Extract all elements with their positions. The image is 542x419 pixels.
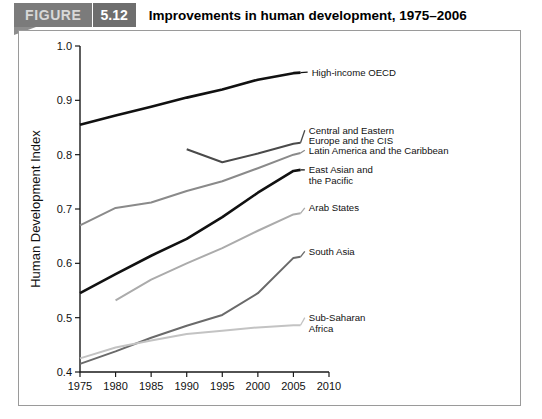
- series-line-0: [80, 73, 301, 125]
- y-tick-label: 0.8: [57, 149, 72, 161]
- series-leader-6: [301, 318, 305, 326]
- figure-root: FIGURE 5.12 Improvements in human develo…: [0, 0, 542, 419]
- series-leader-5: [301, 251, 305, 256]
- series-label-3: East Asian andthe Pacific: [309, 164, 373, 186]
- series-label-2: Latin America and the Caribbean: [309, 145, 449, 156]
- y-tick-label: 0.4: [57, 366, 72, 378]
- figure-number: 5.12: [93, 3, 136, 27]
- y-axis-title: Human Development Index: [28, 130, 43, 288]
- figure-title: Improvements in human development, 1975–…: [136, 3, 467, 27]
- figure-label: FIGURE: [14, 3, 92, 27]
- x-tick-label: 2000: [246, 380, 270, 392]
- chart-axes: [80, 46, 329, 372]
- series-line-2: [80, 153, 301, 225]
- series-line-6: [80, 325, 301, 358]
- series-line-3: [80, 170, 301, 293]
- series-label-6: Sub-SaharanAfrica: [309, 312, 366, 334]
- y-tick-label: 0.5: [57, 312, 72, 324]
- y-tick-label: 0.6: [57, 257, 72, 269]
- x-tick-label: 1990: [174, 380, 198, 392]
- series-leader-0: [301, 72, 308, 73]
- y-tick-label: 0.7: [57, 203, 72, 215]
- y-tick-label: 1.0: [57, 40, 72, 52]
- series-leader-2: [301, 150, 305, 153]
- x-tick-label: 1995: [210, 380, 234, 392]
- y-tick-label: 0.9: [57, 94, 72, 106]
- line-chart: 0.40.50.60.70.80.91.01975198019851990199…: [18, 30, 521, 406]
- series-label-0: High-income OECD: [312, 67, 396, 78]
- series-label-5: South Asia: [309, 246, 356, 257]
- figure-banner: FIGURE 5.12 Improvements in human develo…: [14, 3, 467, 27]
- series-label-1: Central and EasternEurope and the CIS: [309, 125, 394, 147]
- x-tick-label: 1975: [68, 380, 92, 392]
- series-leader-4: [301, 208, 305, 213]
- series-leader-1: [301, 130, 305, 142]
- series-label-4: Arab States: [309, 202, 359, 213]
- x-tick-label: 2005: [281, 380, 305, 392]
- x-tick-label: 1985: [139, 380, 163, 392]
- x-tick-label: 1980: [103, 380, 127, 392]
- x-tick-label: 2010: [317, 380, 341, 392]
